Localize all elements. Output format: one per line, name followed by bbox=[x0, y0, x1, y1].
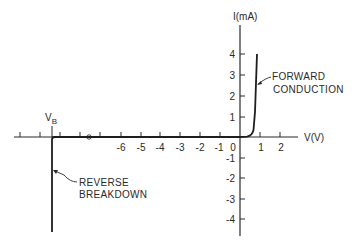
diode-iv-diagram: -6 -5 -4 -3 -2 -1 0 1 2 4 3 2 1 -1 -2 -3… bbox=[0, 0, 354, 243]
x-tick-label: -3 bbox=[176, 142, 185, 153]
breakdown-voltage-label: VB bbox=[45, 112, 57, 126]
x-tick-label: 2 bbox=[278, 142, 284, 153]
annotation-arrow-icon bbox=[55, 171, 77, 182]
y-axis-label: I(mA) bbox=[233, 11, 257, 22]
x-tick-label: -6 bbox=[117, 142, 126, 153]
x-tick-label: 0 bbox=[230, 142, 236, 153]
y-tick-label: 4 bbox=[229, 49, 235, 60]
x-ticks bbox=[20, 126, 280, 137]
y-tick-label: 3 bbox=[229, 70, 235, 81]
x-tick-label: -5 bbox=[137, 142, 146, 153]
y-tick-label: 2 bbox=[229, 91, 235, 102]
y-tick-label: -3 bbox=[226, 194, 235, 205]
reverse-label-line2: BREAKDOWN bbox=[79, 189, 147, 200]
x-tick-label: -1 bbox=[215, 142, 224, 153]
y-tick-label: 1 bbox=[229, 112, 235, 123]
forward-conduction-annotation: FORWARD CONDUCTION bbox=[257, 71, 344, 95]
y-tick-label: -4 bbox=[226, 214, 235, 225]
forward-label-line1: FORWARD bbox=[272, 71, 325, 82]
x-tick-labels: -6 -5 -4 -3 -2 -1 0 1 2 bbox=[117, 142, 285, 153]
y-tick-label: -2 bbox=[226, 173, 235, 184]
x-axis-label: V(V) bbox=[304, 132, 324, 143]
reverse-breakdown-annotation: REVERSE BREAKDOWN bbox=[53, 170, 147, 200]
x-tick-label: -2 bbox=[196, 142, 205, 153]
forward-label-line2: CONDUCTION bbox=[273, 84, 344, 95]
reverse-label-line1: REVERSE bbox=[79, 177, 129, 188]
x-tick-label: 1 bbox=[258, 142, 264, 153]
x-tick-label: -4 bbox=[156, 142, 165, 153]
y-tick-label: -1 bbox=[226, 153, 235, 164]
